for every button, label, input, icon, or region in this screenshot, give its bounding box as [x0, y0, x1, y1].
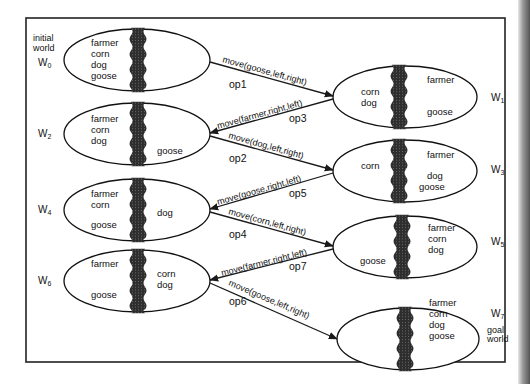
w1-label: W1 — [491, 92, 504, 104]
world-w3: corn farmer dog goose W3 — [333, 139, 504, 204]
w7-right-item: dog — [429, 319, 445, 330]
w4-label: W4 — [38, 204, 51, 216]
op3-label: op3 — [289, 112, 307, 124]
w4-right-item: dog — [157, 207, 173, 218]
w2-left-item: corn — [91, 124, 109, 135]
op1-label: op1 — [229, 78, 247, 90]
w7-label: W7 — [491, 308, 504, 320]
w7-right-item: corn — [429, 308, 447, 319]
op7-label: op7 — [289, 260, 307, 272]
w2-right-item: goose — [157, 145, 183, 156]
op4-label: op4 — [229, 228, 247, 240]
w5-right-item: corn — [428, 233, 446, 244]
goal-world-note: world — [486, 334, 509, 344]
w4-left-item: goose — [91, 219, 117, 230]
w2-left-item: farmer — [91, 113, 118, 124]
w3-right-item: farmer — [427, 149, 454, 160]
w7-right-item: goose — [429, 330, 455, 341]
w1-right-item: goose — [427, 106, 453, 117]
w5-left-item: goose — [360, 255, 386, 266]
world-w5: goose farmer corn dog W5 — [333, 215, 504, 280]
w1-right-item: farmer — [427, 74, 454, 85]
initial-world-note: world — [32, 43, 55, 53]
w1-left-item: corn — [361, 86, 379, 97]
world-w2: farmer corn dog goose W2 — [38, 102, 210, 167]
w3-right-item: goose — [419, 181, 445, 192]
state-space-diagram: farmer corn dog goose initial world W0 c… — [0, 0, 530, 384]
w6-left-item: farmer — [91, 258, 118, 269]
diagram-canvas: farmer corn dog goose initial world W0 c… — [0, 0, 530, 384]
world-w0: farmer corn dog goose initial world W0 — [32, 28, 210, 93]
w2-label: W2 — [38, 128, 51, 140]
w5-label: W5 — [491, 236, 504, 248]
w4-left-item: corn — [91, 199, 109, 210]
w5-right-item: farmer — [428, 222, 455, 233]
arrow-op6 — [210, 283, 337, 339]
w0-label: W0 — [38, 57, 51, 69]
w3-label: W3 — [491, 164, 504, 176]
w0-left-item: goose — [91, 70, 117, 81]
op6-label: op6 — [229, 295, 247, 307]
world-w1: corn dog farmer goose W1 — [333, 65, 504, 130]
w3-right-item: dog — [427, 170, 443, 181]
w5-right-item: dog — [428, 244, 444, 255]
w4-left-item: farmer — [91, 188, 118, 199]
op5-label: op5 — [289, 187, 307, 199]
op2-label: op2 — [229, 152, 247, 164]
world-w6: farmer goose corn dog W6 — [38, 249, 210, 314]
w0-left-item: corn — [91, 48, 109, 59]
w6-right-item: dog — [157, 279, 173, 290]
w6-label: W6 — [38, 275, 51, 287]
scan-edge-shadow — [518, 0, 530, 384]
world-w4: farmer corn goose dog W4 — [38, 178, 210, 243]
w1-left-item: dog — [361, 97, 377, 108]
w2-left-item: dog — [91, 135, 107, 146]
w0-left-item: dog — [91, 59, 107, 70]
w3-left-item: corn — [361, 160, 379, 171]
w7-right-item: farmer — [429, 297, 456, 308]
world-w7: farmer corn dog goose W7 goal world — [337, 297, 509, 371]
w6-left-item: goose — [91, 289, 117, 300]
initial-world-note: initial — [33, 33, 54, 43]
w6-right-item: corn — [157, 268, 175, 279]
w0-left-item: farmer — [91, 37, 118, 48]
